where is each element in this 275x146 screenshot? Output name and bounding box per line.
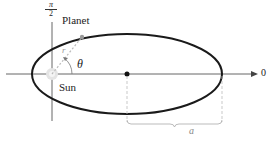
zero-label: 0 <box>261 67 266 78</box>
r-label: r <box>62 45 66 55</box>
planet-dot <box>80 35 84 39</box>
a-brace <box>127 120 222 127</box>
center-dot <box>125 72 130 77</box>
sun-label: Sun <box>59 81 76 93</box>
polar-axis-arrow-icon <box>251 71 258 77</box>
a-label: a <box>189 125 194 136</box>
pi-denominator: 2 <box>45 10 57 18</box>
pi-over-2-label: π 2 <box>45 1 57 18</box>
theta-label: θ <box>77 57 83 72</box>
orbit-diagram: π 2 Planet Sun θ r 0 a <box>0 0 275 146</box>
planet-label: Planet <box>62 14 90 26</box>
orbit-svg <box>0 0 275 146</box>
